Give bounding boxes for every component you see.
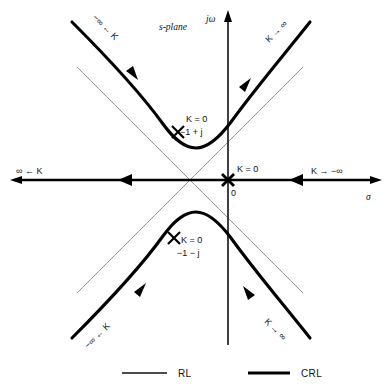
s-plane-diagram: s-plane jω σ K = 0 0 K = 0 −1 + j K = 0 … <box>0 0 389 390</box>
lower-zero-gain-label: K = 0 <box>181 235 202 245</box>
real-axis-label: σ <box>366 192 371 202</box>
legend-item-rl: RL <box>122 368 192 379</box>
origin-value-label: 0 <box>231 188 236 198</box>
s-plane-label: s-plane <box>159 22 187 32</box>
imaginary-axis-arrow <box>224 10 232 22</box>
lower-pole-x-marker <box>168 232 180 244</box>
axes <box>10 10 382 345</box>
asymptote-top-left-label: −∞ ← K <box>91 12 120 41</box>
asymptote-upper-left <box>77 67 190 180</box>
crl-lower-left-arrow <box>134 283 146 297</box>
legend-item-crl: CRL <box>248 368 322 379</box>
upper-zero-gain-label: K = 0 <box>186 114 207 124</box>
real-axis-direction-arrow-right <box>289 174 303 186</box>
imaginary-axis-label: jω <box>204 14 216 24</box>
crl-upper-left-arrow <box>126 66 138 80</box>
labels: s-plane jω σ K = 0 0 K = 0 −1 + j K = 0 … <box>16 12 371 350</box>
real-axis-direction-arrow-left <box>118 174 132 186</box>
asymptote-bottom-left-label: −∞ ← K <box>82 321 111 350</box>
origin-gain-label: K = 0 <box>237 164 258 174</box>
real-axis-right-label: K → −∞ <box>311 166 343 176</box>
upper-zero-value-label: −1 + j <box>180 127 203 137</box>
crl-lower-right-arrow <box>243 286 255 300</box>
legend-label-crl: CRL <box>301 368 322 379</box>
crl-upper-right-arrow <box>239 78 251 92</box>
legend-label-rl: RL <box>178 368 192 379</box>
lower-zero-value-label: −1 − j <box>177 248 200 258</box>
asymptote-top-right-label: K → ∞ <box>263 19 289 45</box>
real-axis-left-label: ∞ ← K <box>16 166 42 176</box>
asymptote-bottom-right-label: K → ∞ <box>263 316 289 342</box>
crl-lower-branch <box>72 212 310 338</box>
legend: RL CRL <box>122 368 322 379</box>
asymptote-lower-right <box>190 180 303 293</box>
pole-markers <box>168 126 234 244</box>
root-locus-figure: s-plane jω σ K = 0 0 K = 0 −1 + j K = 0 … <box>0 0 389 390</box>
